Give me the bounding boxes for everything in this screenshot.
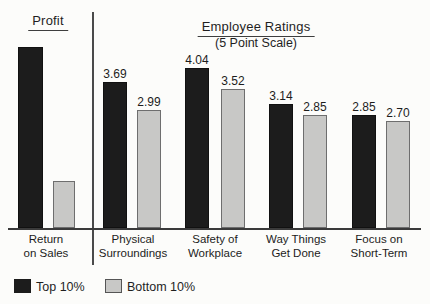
bar-top-10-focus-on-short-term	[352, 115, 376, 228]
value-label-top-10-safety-of-workplace: 4.04	[175, 53, 219, 67]
ratings-section-title: Employee Ratings	[198, 19, 315, 37]
bar-bottom-10-way-things-get-done	[303, 115, 327, 228]
bar-bottom-10-return-on-sales	[53, 181, 75, 228]
profit-section-title: Profit	[28, 13, 68, 31]
value-label-bottom-10-safety-of-workplace: 3.52	[211, 74, 255, 88]
value-label-bottom-10-way-things-get-done: 2.85	[293, 100, 337, 114]
value-label-bottom-10-physical-surroundings: 2.99	[127, 95, 171, 109]
bar-top-10-physical-surroundings	[103, 82, 127, 228]
bar-bottom-10-physical-surroundings	[137, 110, 161, 228]
legend-label-top-10: Top 10%	[36, 280, 85, 294]
bar-top-10-way-things-get-done	[269, 104, 293, 228]
chart-canvas: Profit Employee Ratings (5 Point Scale) …	[0, 0, 430, 304]
bar-bottom-10-focus-on-short-term	[386, 121, 410, 228]
value-label-bottom-10-focus-on-short-term: 2.70	[376, 106, 420, 120]
bar-top-10-return-on-sales	[18, 47, 43, 228]
bar-bottom-10-safety-of-workplace	[221, 89, 245, 228]
legend-label-bottom-10: Bottom 10%	[127, 280, 195, 294]
category-label-focus-on-short-term: Focus onShort-Term	[324, 233, 430, 260]
value-label-top-10-physical-surroundings: 3.69	[93, 67, 137, 81]
legend-swatch-top-10-icon	[14, 279, 31, 293]
x-axis-baseline	[8, 228, 421, 230]
legend-swatch-bottom-10-icon	[105, 279, 122, 293]
bar-top-10-safety-of-workplace	[185, 68, 209, 228]
ratings-section-subtitle: (5 Point Scale)	[215, 36, 297, 50]
